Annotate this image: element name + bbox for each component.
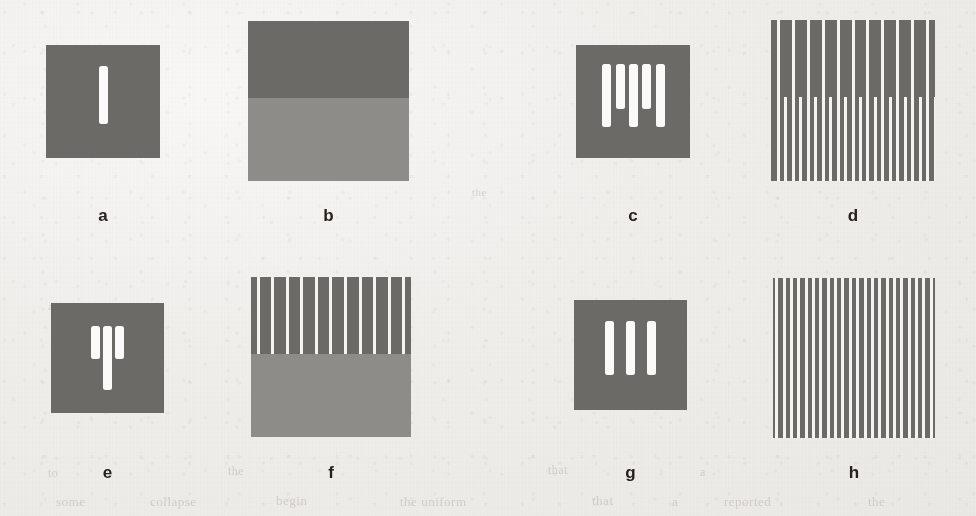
bleed-through-word: collapse [150, 494, 197, 510]
stimulus-bar [103, 326, 112, 390]
stimulus-a [46, 45, 160, 158]
stimulus-bar [626, 321, 635, 375]
grating-line-lower [934, 97, 935, 181]
grating-line-full [926, 20, 929, 181]
grating-line [315, 277, 318, 354]
panel-label-a: a [46, 206, 160, 226]
stimulus-b [248, 21, 409, 181]
grating-line [878, 278, 881, 438]
stimulus-bar [99, 66, 108, 124]
grating-line [344, 277, 347, 354]
stimulus-bar [642, 64, 651, 109]
stimulus-bar [629, 64, 638, 127]
grating-line [805, 278, 808, 438]
stimulus-c [576, 45, 690, 158]
stimulus-f [251, 277, 411, 437]
bleed-through-word: the uniform [400, 494, 467, 510]
grating-line-lower [919, 97, 922, 181]
grating-line [834, 278, 837, 438]
grating-line [286, 277, 289, 354]
grating-line-lower [889, 97, 892, 181]
grating-line-full [807, 20, 810, 181]
grating-line [915, 278, 918, 438]
bleed-through-word: the [228, 464, 244, 479]
grating-line [819, 278, 822, 438]
grating-line-full [837, 20, 840, 181]
panel-label-f: f [251, 463, 411, 483]
grating-line [388, 277, 391, 354]
bleed-through-word: that [548, 463, 568, 478]
bleed-through-word: the [868, 494, 885, 510]
bleed-through-word: begin [276, 493, 307, 509]
stimulus-bar [115, 326, 124, 359]
grating-line [849, 278, 852, 438]
grating-line [841, 278, 844, 438]
grating-line-lower [814, 97, 817, 181]
grating-line-lower [784, 97, 787, 181]
grating-line-full [896, 20, 899, 181]
grating-line [930, 278, 933, 438]
stimulus-d [771, 20, 935, 181]
grating-line-lower [874, 97, 877, 181]
grating-line [783, 278, 786, 438]
grating-line-lower [829, 97, 832, 181]
grating-line [827, 278, 830, 438]
grating-line-full [792, 20, 795, 181]
panel-label-c: c [576, 206, 690, 226]
grating-line [300, 277, 303, 354]
grating-line-lower [799, 97, 802, 181]
stimulus-bar [602, 64, 611, 127]
bleed-through-word: a [700, 465, 706, 480]
grating-line-full [852, 20, 855, 181]
bleed-through-word: some [56, 494, 85, 510]
grating-line-lower [859, 97, 862, 181]
stimulus-bar [616, 64, 625, 109]
grating-line-full [911, 20, 914, 181]
grating-line-full [822, 20, 825, 181]
grating-line [893, 278, 896, 438]
grating-line [329, 277, 332, 354]
panel-label-b: b [248, 206, 409, 226]
stimulus-bar [605, 321, 614, 375]
panel-label-g: g [574, 463, 687, 483]
stimulus-bar [656, 64, 665, 127]
stimulus-bar [91, 326, 100, 359]
field-lower-half [251, 354, 411, 437]
bleed-through-word: a [672, 494, 678, 510]
stimulus-e [51, 303, 164, 413]
grating-line [922, 278, 925, 438]
grating-line [257, 277, 260, 354]
stimulus-g [574, 300, 687, 410]
grating-line [402, 277, 405, 354]
grating-line-full [777, 20, 780, 181]
grating-line [856, 278, 859, 438]
grating-line-full [866, 20, 869, 181]
bleed-through-word: reported [724, 494, 771, 510]
panel-label-e: e [51, 463, 164, 483]
bleed-through-word: the [472, 186, 487, 198]
grating-line [900, 278, 903, 438]
grating-line [790, 278, 793, 438]
grating-line-lower [904, 97, 907, 181]
stimulus-bar [647, 321, 656, 375]
grating-line [359, 277, 362, 354]
grating-line [908, 278, 911, 438]
grating-line [871, 278, 874, 438]
grating-line [373, 277, 376, 354]
grating-line-lower [844, 97, 847, 181]
grating-line [886, 278, 889, 438]
grating-line [812, 278, 815, 438]
grating-line [864, 278, 867, 438]
stimulus-h [773, 278, 935, 438]
grating-line [797, 278, 800, 438]
bleed-through-word: that [592, 493, 614, 509]
panel-label-d: d [771, 206, 935, 226]
grating-line [775, 278, 778, 438]
field-lower-half [248, 98, 409, 181]
grating-line [271, 277, 274, 354]
grating-line-full [881, 20, 884, 181]
panel-label-h: h [773, 463, 935, 483]
